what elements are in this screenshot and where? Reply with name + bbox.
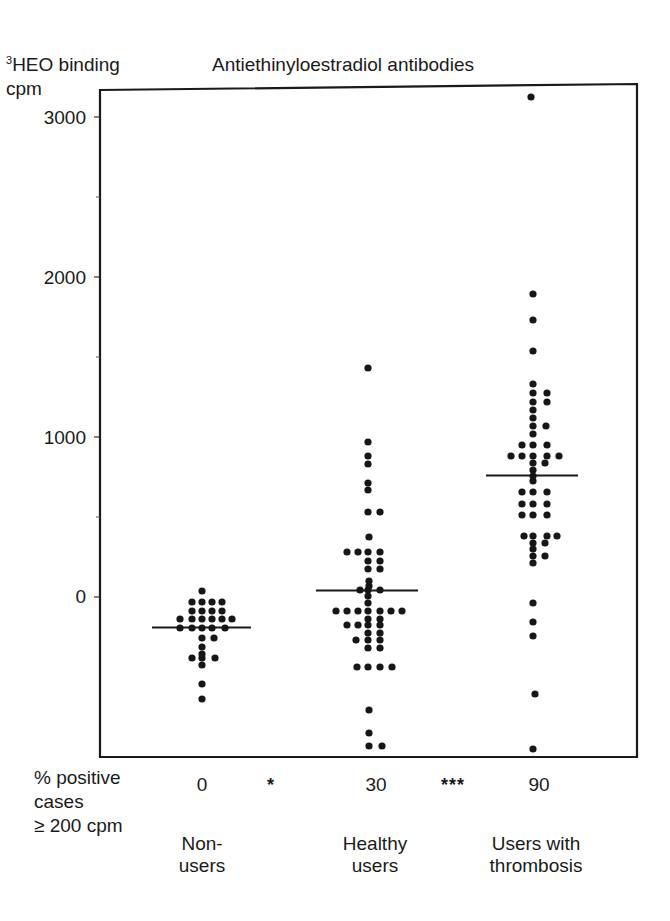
data-point: [543, 441, 550, 448]
data-point: [352, 636, 359, 643]
data-point: [364, 438, 371, 445]
data-point: [543, 452, 550, 459]
data-point: [354, 621, 361, 628]
category-label-non-users: Non- users: [152, 833, 252, 877]
data-point: [529, 414, 536, 421]
data-point: [354, 548, 361, 555]
category-label-line2: thrombosis: [471, 855, 601, 877]
data-point: [198, 695, 205, 702]
category-label-line2: users: [325, 855, 425, 877]
plot-border: [100, 84, 637, 757]
data-point: [376, 565, 383, 572]
category-label-healthy-users: Healthy users: [325, 833, 425, 877]
data-point: [218, 615, 225, 622]
series-1: [332, 364, 405, 749]
data-point: [529, 380, 536, 387]
data-point: [198, 643, 205, 650]
data-point: [376, 508, 383, 515]
data-point: [529, 632, 536, 639]
data-point: [376, 621, 383, 628]
data-point: [364, 364, 371, 371]
pct-positive-non-users: 0: [172, 774, 232, 796]
data-point: [542, 422, 549, 429]
category-label-thrombosis: Users with thrombosis: [471, 833, 601, 877]
series-0: [176, 587, 235, 702]
data-point: [543, 389, 550, 396]
data-point: [529, 545, 536, 552]
data-point: [365, 706, 372, 713]
data-point: [343, 607, 350, 614]
data-point: [364, 548, 371, 555]
data-point: [531, 690, 538, 697]
data-point: [527, 93, 534, 100]
data-point: [388, 663, 395, 670]
plot-frame: [100, 84, 637, 757]
data-point: [541, 552, 548, 559]
data-point: [364, 508, 371, 515]
data-point: [218, 598, 225, 605]
data-point: [543, 532, 550, 539]
data-point: [529, 347, 536, 354]
data-point: [529, 316, 536, 323]
data-point: [520, 532, 527, 539]
data-point: [364, 565, 371, 572]
data-point: [529, 477, 536, 484]
data-point: [376, 607, 383, 614]
data-point: [198, 587, 205, 594]
data-point: [211, 654, 218, 661]
pct-positive-label: % positive cases ≥ 200 cpm: [34, 766, 123, 838]
data-point: [208, 598, 215, 605]
data-point: [541, 459, 548, 466]
data-point: [198, 661, 205, 668]
data-point: [529, 398, 536, 405]
data-point: [529, 552, 536, 559]
data-point: [507, 452, 514, 459]
data-point: [198, 680, 205, 687]
data-point: [218, 607, 225, 614]
data-point: [176, 615, 183, 622]
data-point: [518, 441, 525, 448]
data-point: [356, 586, 363, 593]
data-point: [198, 598, 205, 605]
data-point: [376, 586, 383, 593]
data-point: [364, 599, 371, 606]
pct-positive-healthy-users: 30: [346, 774, 406, 796]
data-point: [364, 663, 371, 670]
significance-marker-2: ***: [441, 775, 465, 796]
series-2: [507, 93, 562, 752]
data-point: [208, 607, 215, 614]
data-point: [188, 607, 195, 614]
data-point: [376, 663, 383, 670]
data-point: [543, 500, 550, 507]
data-point: [529, 430, 536, 437]
data-point: [364, 460, 371, 467]
data-point: [529, 618, 536, 625]
category-label-line1: Users with: [471, 833, 601, 855]
data-point: [354, 607, 361, 614]
data-point: [376, 557, 383, 564]
data-point: [529, 290, 536, 297]
data-point: [188, 624, 195, 631]
data-point: [364, 452, 371, 459]
data-point: [529, 422, 536, 429]
data-point: [518, 511, 525, 518]
data-point: [343, 548, 350, 555]
data-point: [543, 511, 550, 518]
data-point: [176, 624, 183, 631]
data-point: [365, 742, 372, 749]
data-point: [529, 488, 536, 495]
data-point: [529, 559, 536, 566]
pct-positive-label-line2: cases: [34, 790, 123, 814]
category-label-line1: Healthy: [325, 833, 425, 855]
data-point: [188, 654, 195, 661]
data-point: [198, 654, 205, 661]
category-label-line2: users: [152, 855, 252, 877]
data-point: [378, 742, 385, 749]
data-point: [376, 629, 383, 636]
data-point: [364, 607, 371, 614]
data-point: [353, 663, 360, 670]
data-point: [398, 607, 405, 614]
data-point: [529, 500, 536, 507]
significance-marker-1: *: [267, 775, 275, 796]
data-point: [364, 592, 371, 599]
